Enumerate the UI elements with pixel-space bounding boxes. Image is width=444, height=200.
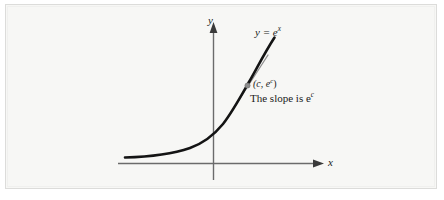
- slope-note-label: The slope is ec: [250, 93, 314, 104]
- point-marker: [245, 83, 250, 88]
- point-coordinates-label: (c, ec): [253, 79, 277, 89]
- x-axis-arrow-icon: [313, 159, 324, 167]
- curve-equation-label: y = ex: [255, 27, 281, 38]
- figure-root: y x y = ex (c, ec) The slope is ec: [0, 0, 444, 200]
- x-axis-label: x: [328, 157, 333, 168]
- y-axis-label: y: [208, 15, 213, 26]
- plot-canvas: [0, 0, 444, 200]
